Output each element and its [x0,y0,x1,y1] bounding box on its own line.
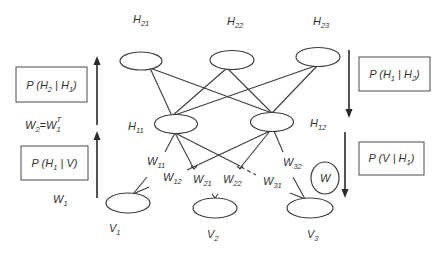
dbn-diagram: H21 H22 H23 H11 H12 V1 V2 V3 W W11 W12 W… [0,0,445,253]
label-h12: H12 [310,117,327,132]
label-w1: W1 [53,193,68,208]
arrow-up-lower-head [94,131,101,140]
label-h23: H23 [313,15,330,30]
edge-h22-h12 [227,68,272,113]
arrow-down-lower-head [342,189,349,198]
label-v2: V2 [207,228,219,243]
node-h12 [251,113,294,132]
arrow-v3-a [293,177,305,199]
node-h22 [210,51,254,70]
label-w22: W22 [223,173,243,188]
label-w21: W21 [193,173,212,188]
label-h22: H22 [227,15,244,30]
label-w-node: W [320,172,332,184]
edge-h22-h11 [172,68,227,116]
edge-w11 [165,133,175,152]
node-h23 [296,48,340,67]
node-h21 [120,52,162,70]
node-v3 [287,198,333,218]
edge-w31-dashed [241,167,256,175]
label-v1: V1 [109,222,121,237]
label-weight-tie: W2=W1T [25,115,63,134]
edges-h2-h1 [150,65,318,116]
edge-w22 [240,131,270,168]
label-w32: W32 [283,156,303,171]
edge-h23-h12 [272,65,318,113]
left-panel: P (H2 | H1) W2=W1T P (H1 | V) W1 [16,56,101,208]
edge-h23-h11 [172,65,318,116]
edges-h1-v [165,131,283,175]
label-w31: W31 [263,175,282,190]
label-w12: W12 [163,171,183,186]
node-h11 [155,115,198,134]
label-v3: V3 [307,228,319,243]
node-v2 [193,198,237,218]
arrow-up-upper-head [94,56,101,65]
node-v1 [106,193,150,213]
arrow-down-upper-head [346,109,353,118]
edge-w12 [187,131,270,170]
label-h21: H21 [133,13,149,28]
edge-h21-h12 [150,68,272,113]
label-h11: H11 [128,120,144,135]
label-w11: W11 [147,155,165,170]
right-panel: P (H1 | H2) P (V | H1) [342,50,431,198]
edge-w32 [274,131,283,152]
